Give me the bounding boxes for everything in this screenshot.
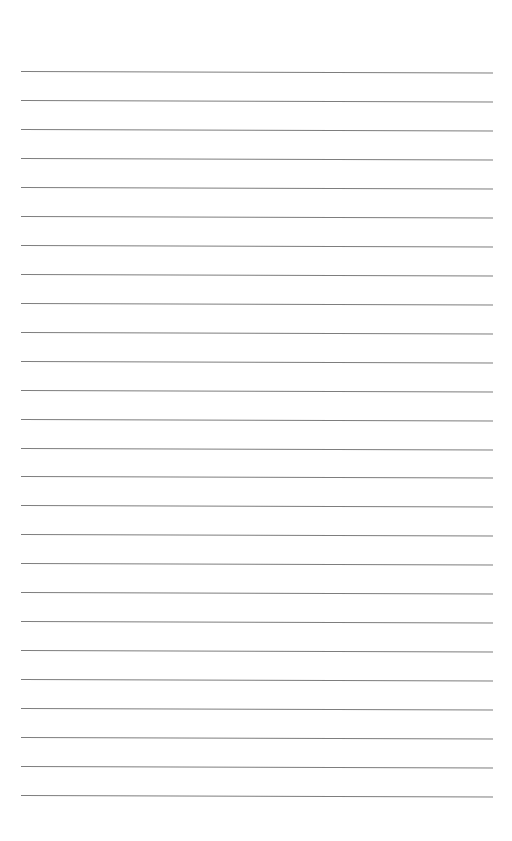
ruled-line [21, 592, 493, 595]
ruled-line [21, 795, 493, 798]
ruled-line [21, 129, 493, 132]
ruled-line [21, 187, 493, 190]
ruled-line [21, 245, 493, 248]
ruled-line [21, 448, 493, 451]
ruled-line [21, 679, 493, 682]
ruled-line [21, 419, 493, 422]
ruled-line [21, 708, 493, 711]
ruled-line [21, 766, 493, 769]
ruled-page [0, 0, 512, 841]
ruled-line [21, 621, 493, 624]
ruled-line [21, 390, 493, 393]
ruled-line [21, 505, 493, 508]
ruled-line [21, 274, 493, 277]
ruled-line [21, 650, 493, 653]
ruled-line [21, 216, 493, 219]
ruled-line [21, 332, 493, 335]
ruled-line [21, 534, 493, 537]
ruled-line [21, 158, 493, 161]
ruled-line [21, 476, 493, 479]
ruled-line [21, 100, 493, 103]
ruled-line [21, 361, 493, 364]
ruled-line [21, 563, 493, 566]
ruled-line [21, 303, 493, 306]
ruled-line [21, 737, 493, 740]
ruled-line [21, 71, 493, 74]
